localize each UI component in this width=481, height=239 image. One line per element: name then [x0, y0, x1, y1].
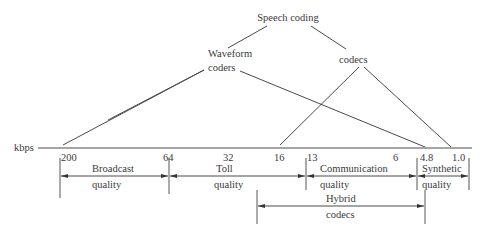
speech-coding-diagram: Speech coding Waveform coders codecs kbp…	[0, 0, 481, 239]
range-synthetic-line1: Synthetic	[422, 163, 462, 174]
range-broadcast-line1: Broadcast	[92, 163, 134, 174]
tick-16: 16	[274, 152, 285, 163]
tick-13: 13	[307, 152, 318, 163]
node-waveform-line2: coders	[208, 62, 235, 73]
axis-unit-kbps: kbps	[14, 142, 34, 153]
tick-32: 32	[223, 152, 234, 163]
tick-200: 200	[61, 152, 77, 163]
range-communication-line1: Communication	[320, 163, 388, 174]
axis-tick-labels: 200 64 32 16 13 6 4.8 1.0	[61, 152, 465, 163]
quality-arrows	[61, 174, 468, 178]
range-synthetic-line2: quality	[422, 179, 452, 190]
hybrid-codecs-line2: codecs	[326, 209, 355, 220]
node-codecs: codecs	[339, 54, 368, 65]
tree-connectors	[63, 26, 451, 147]
hybrid-codecs-line1: Hybrid	[326, 193, 356, 204]
tick-6: 6	[393, 152, 398, 163]
tick-1-0: 1.0	[452, 152, 465, 163]
node-waveform-line1: Waveform	[208, 48, 252, 59]
range-broadcast-line2: quality	[92, 179, 122, 190]
tick-4-8: 4.8	[420, 152, 433, 163]
range-toll-line2: quality	[214, 179, 244, 190]
range-communication-line2: quality	[320, 179, 350, 190]
root-node-speech-coding: Speech coding	[257, 12, 319, 23]
range-toll-line1: Toll	[216, 163, 233, 174]
